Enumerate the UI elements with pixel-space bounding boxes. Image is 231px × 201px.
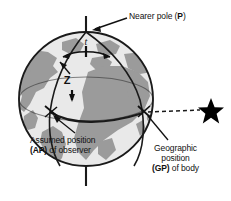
- label-nearer-pole-suffix: ): [183, 11, 186, 21]
- pole-leader-line: [92, 18, 127, 32]
- label-ap-abbrev: (AP): [30, 145, 47, 155]
- navigation-triangle-figure: t Z Nearer pole (P) Assumed: [0, 0, 231, 201]
- label-geographic-position: Geographic position (GP) of body: [152, 143, 199, 173]
- dashed-line-to-body: [148, 110, 200, 112]
- meridian-angle-label: t: [85, 36, 88, 47]
- label-gp-line3: (GP) of body: [152, 163, 199, 173]
- label-gp-line1: Geographic: [152, 143, 199, 153]
- label-gp-line2: position: [152, 153, 199, 163]
- label-nearer-pole-prefix: Nearer pole (: [129, 11, 177, 21]
- label-assumed-position: Assumed position (AP) of observer: [30, 135, 96, 155]
- label-ap-line2: (AP) of observer: [30, 145, 96, 155]
- zenith-distance-label: Z: [64, 74, 71, 86]
- label-ap-line2-rest: of observer: [47, 145, 91, 155]
- label-nearer-pole: Nearer pole (P): [129, 12, 186, 22]
- label-gp-line3-rest: of body: [170, 163, 199, 173]
- label-ap-line1: Assumed position: [30, 135, 96, 145]
- gp-leader-line: [148, 116, 168, 140]
- star-icon: [198, 98, 224, 123]
- label-gp-abbrev: (GP): [152, 163, 170, 173]
